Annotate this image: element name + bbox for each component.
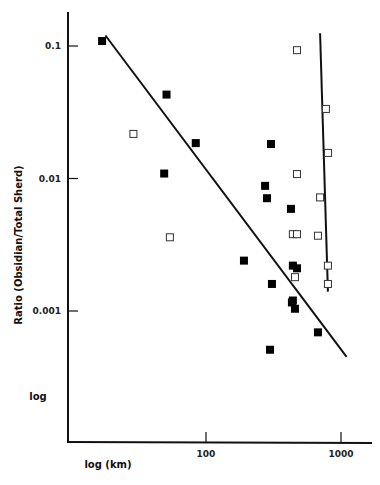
filled-square-marker [314, 328, 322, 336]
filled-square-marker [266, 346, 274, 354]
x-axis-title: log (km) [84, 459, 131, 470]
y-axis-title: Ratio (Obsidian/Total Sherd) [13, 165, 24, 324]
open-square-marker [324, 262, 331, 269]
x-tick-label: 1000 [328, 449, 353, 459]
open-square-marker [324, 280, 331, 287]
filled-square-marker [192, 139, 200, 147]
corner-label: log [29, 391, 46, 402]
trend-lines [105, 33, 346, 357]
filled-square-marker [287, 205, 295, 213]
filled-square-marker [291, 305, 299, 313]
open-trend-line [320, 33, 328, 291]
filled-square-marker [261, 182, 269, 190]
open-square-marker [317, 194, 324, 201]
open-square-marker [325, 149, 332, 156]
filled-square-marker [240, 257, 248, 265]
y-tick-label: 0.01 [39, 174, 61, 184]
y-ticks: 0.10.010.001 [33, 41, 78, 316]
open-square-marker [293, 171, 300, 178]
open-square-marker [130, 130, 137, 137]
open-square-marker [293, 231, 300, 238]
filled-square-marker [293, 264, 301, 272]
filled-square-marker [268, 280, 276, 288]
x-axis [67, 442, 372, 443]
data-points [98, 37, 331, 354]
filled-square-marker [98, 37, 106, 45]
scatter-plot: 0.10.010.001 1001000 Ratio (Obsidian/Tot… [0, 0, 380, 485]
y-tick-label: 0.1 [45, 41, 61, 51]
open-square-marker [314, 232, 321, 239]
open-square-marker [322, 105, 329, 112]
filled-square-marker [163, 91, 171, 99]
x-tick-label: 100 [197, 449, 216, 459]
y-tick-label: 0.001 [33, 306, 61, 316]
filled-trend-line [105, 36, 346, 357]
open-square-marker [293, 47, 300, 54]
open-square-marker [291, 274, 298, 281]
filled-square-marker [267, 140, 275, 148]
open-square-marker [166, 234, 173, 241]
x-ticks: 1001000 [197, 432, 354, 459]
filled-square-marker [160, 170, 168, 178]
filled-square-marker [263, 194, 271, 202]
